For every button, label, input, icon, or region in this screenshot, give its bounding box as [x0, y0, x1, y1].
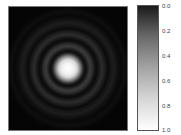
colorbar-tick-2: 0.4 [162, 53, 170, 59]
airy-pattern-plot [8, 6, 128, 131]
colorbar-tick-4: 0.8 [162, 103, 170, 109]
colorbar-tick-0: 0.0 [162, 3, 170, 9]
colorbar [137, 5, 159, 131]
diffraction-image [9, 7, 127, 130]
colorbar-tick-1: 0.2 [162, 28, 170, 34]
colorbar-tick-3: 0.6 [162, 78, 170, 84]
colorbar-tick-5: 1.0 [162, 127, 170, 133]
